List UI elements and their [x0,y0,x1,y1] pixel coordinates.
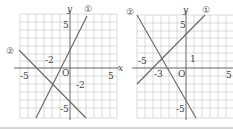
left-x-intercept-tick: -2 [76,80,85,90]
right-y-neg-tick: -5 [176,104,185,114]
right-y-pos-tick: 5 [180,20,186,30]
right-line-1-label: ① [202,5,210,15]
left-y-neg-tick: -5 [60,104,69,114]
right-line-2 [137,15,196,118]
right-lines [137,15,205,118]
graphs-figure: y x ① ② O -5 5 5 -5 -2 -2 [0,0,233,131]
left-line-1 [36,16,87,118]
right-line-2-label: ② [126,7,134,17]
right-origin-label: O [178,69,185,79]
left-line-2-label: ② [6,46,14,56]
right-x-pos-tick: 5 [226,70,232,80]
left-origin-label: O [62,68,69,78]
right-x-neg-tick: -5 [138,56,147,66]
left-graph: y x ① ② O -5 5 5 -5 -2 -2 [6,4,123,120]
left-x-pos-tick: 5 [108,71,114,81]
left-y-pos-tick: 5 [63,20,69,30]
left-line-1-label: ① [84,4,92,14]
right-y-one-tick: 1 [190,54,196,64]
left-y-axis-label: y [66,4,73,14]
right-y-axis-label: y [182,5,189,15]
right-graph: y ① ② O -5 5 5 -5 1 -3 [126,5,233,120]
left-y-intercept-tick: -2 [45,55,54,65]
right-grid [137,15,233,118]
left-lines [19,16,87,118]
right-x-neg3-tick: -3 [154,69,163,79]
left-x-axis-label: x [118,63,123,73]
left-x-neg-tick: -5 [20,71,29,81]
